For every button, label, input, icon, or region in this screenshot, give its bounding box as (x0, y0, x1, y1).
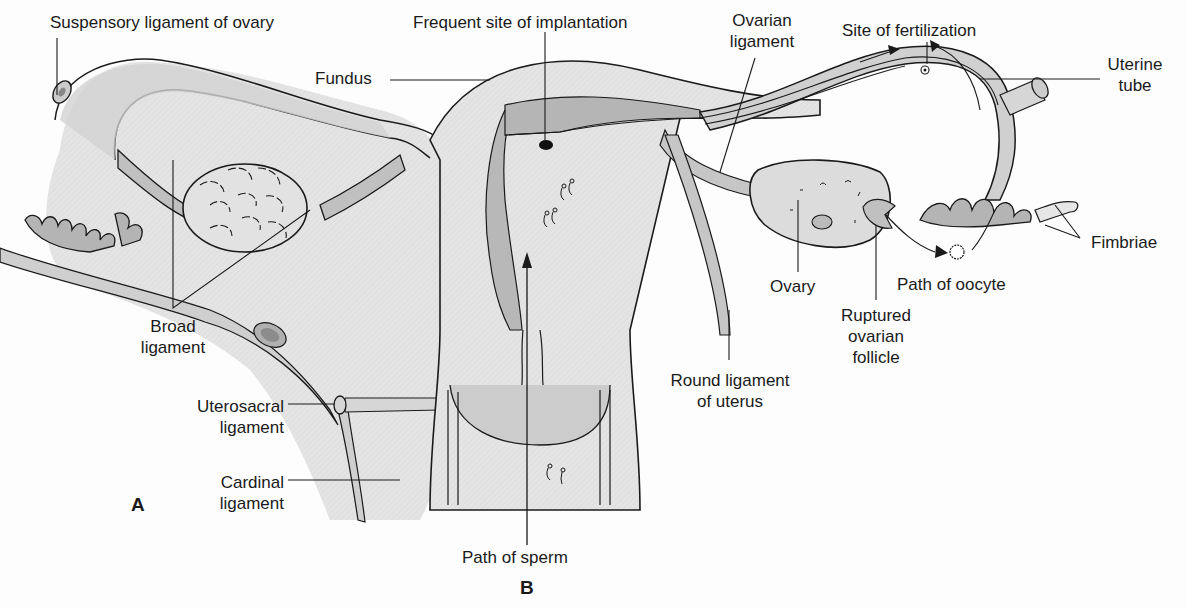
uterus (430, 61, 820, 545)
panel-label-b: B (520, 577, 534, 599)
label-path-of-sperm: Path of sperm (462, 547, 568, 568)
label-site-of-fertilization: Site of fertilization (842, 20, 976, 41)
label-implantation-site: Frequent site of implantation (413, 12, 628, 33)
label-fimbriae: Fimbriae (1091, 232, 1157, 253)
label-broad-ligament: Broad ligament (133, 316, 213, 358)
right-ovary (750, 160, 895, 247)
label-uterine-tube: Uterine tube (1100, 54, 1170, 96)
label-suspensory-ligament: Suspensory ligament of ovary (50, 12, 274, 33)
label-fundus: Fundus (315, 68, 372, 89)
left-ovary (183, 164, 307, 252)
label-round-ligament: Round ligament of uterus (650, 370, 810, 412)
panel-label-a: A (131, 494, 145, 516)
label-ovarian-ligament: Ovarian ligament (722, 10, 802, 52)
anatomy-illustration (0, 0, 1186, 609)
label-ruptured-follicle: Ruptured ovarian follicle (823, 305, 929, 368)
label-ovary: Ovary (770, 276, 815, 297)
reproductive-anatomy-diagram: Suspensory ligament of ovary Fundus Freq… (0, 0, 1186, 609)
label-cardinal-ligament: Cardinal ligament (190, 472, 284, 514)
label-path-of-oocyte: Path of oocyte (897, 274, 1006, 295)
label-uterosacral-ligament: Uterosacral ligament (170, 396, 284, 438)
